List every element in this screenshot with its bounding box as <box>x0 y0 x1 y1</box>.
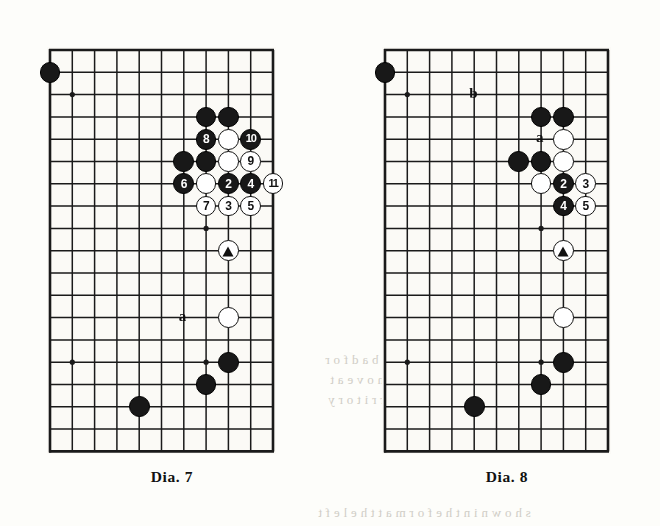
stone-move-number: 4 <box>560 200 566 212</box>
stone-black <box>375 62 396 83</box>
stone-white <box>218 307 239 328</box>
stone-black <box>196 151 217 172</box>
stone-move-number: 9 <box>248 155 254 167</box>
stone-white-marked-triangle <box>218 240 239 261</box>
stone-black-move-2: 2 <box>553 173 574 194</box>
stone-move-number: 2 <box>225 178 231 190</box>
stone-move-number: 6 <box>181 178 187 190</box>
stone-white <box>218 151 239 172</box>
stone-move-number: 10 <box>246 133 256 144</box>
board-marker-a: a <box>536 129 544 146</box>
stone-black <box>218 352 239 373</box>
stone-move-number: 11 <box>268 178 277 189</box>
stone-black-move-10: 10 <box>240 129 261 150</box>
stone-move-number: 8 <box>203 133 209 145</box>
stone-black-move-2: 2 <box>218 173 239 194</box>
diagram-caption-dia8: Dia. 8 <box>387 468 627 486</box>
stone-black <box>553 107 574 128</box>
board-marker-a: a <box>179 308 187 325</box>
stone-white-marked-triangle <box>553 240 574 261</box>
stone-black <box>196 374 217 395</box>
stone-black-move-8: 8 <box>196 129 217 150</box>
stone-black-move-4: 4 <box>553 196 574 217</box>
stone-black <box>531 151 552 172</box>
stone-white <box>553 151 574 172</box>
stone-black <box>218 107 239 128</box>
go-board-dia8: ba2345 <box>385 50 608 451</box>
stone-move-number: 5 <box>248 200 254 212</box>
stone-black <box>464 396 485 417</box>
diagram-caption-dia7: Dia. 7 <box>52 468 292 486</box>
triangle-mark-icon <box>222 245 235 257</box>
stone-white-move-9: 9 <box>240 151 261 172</box>
stone-white <box>553 307 574 328</box>
stone-black <box>40 62 61 83</box>
board-marker-b: b <box>469 85 477 102</box>
board-grid <box>47 47 276 454</box>
stone-white-move-3: 3 <box>218 196 239 217</box>
go-board-dia7: a810962411735 <box>50 50 273 451</box>
stone-black <box>553 352 574 373</box>
stone-move-number: 2 <box>560 178 566 190</box>
stone-move-number: 3 <box>583 178 589 190</box>
stone-black <box>531 374 552 395</box>
stone-white-move-11: 11 <box>263 173 284 194</box>
stone-black <box>173 151 194 172</box>
board-grid <box>382 47 611 454</box>
stone-move-number: 3 <box>225 200 231 212</box>
triangle-mark-icon <box>557 245 570 257</box>
stone-move-number: 4 <box>248 178 254 190</box>
ghost-bleed-text: s h o w n i n t h e f o r m a t t h e l … <box>318 505 531 521</box>
stone-black <box>129 396 150 417</box>
stone-move-number: 7 <box>203 200 209 212</box>
stone-white <box>553 129 574 150</box>
stone-white <box>218 129 239 150</box>
stone-black <box>508 151 529 172</box>
stone-move-number: 5 <box>583 200 589 212</box>
